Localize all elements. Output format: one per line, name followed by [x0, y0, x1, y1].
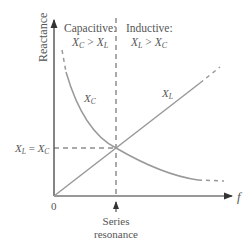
xl-line-dashed — [200, 67, 220, 83]
origin-label: 0 — [51, 200, 57, 212]
xc-curve-label: XC — [83, 92, 97, 106]
resonance-label-line2: resonance — [94, 228, 138, 240]
inductive-condition: XL > XC — [130, 36, 168, 50]
reactance-vs-frequency-diagram: Reactance f 0 Capacitive: XC > XL Induct… — [0, 0, 251, 251]
xc-curve-dashed — [62, 50, 66, 72]
resonance-label-line1: Series — [103, 215, 130, 227]
xc-curve-dashed-tail — [198, 180, 224, 181]
capacitive-condition: XC > XL — [71, 36, 109, 50]
x-axis-label: f — [237, 189, 243, 204]
inductive-title: Inductive: — [126, 22, 173, 34]
capacitive-title: Capacitive: — [64, 22, 116, 35]
xl-curve-label: XL — [161, 87, 173, 101]
xc-curve — [66, 72, 198, 180]
equality-label: XL = XC — [14, 142, 50, 156]
y-axis-label: Reactance — [36, 13, 50, 62]
